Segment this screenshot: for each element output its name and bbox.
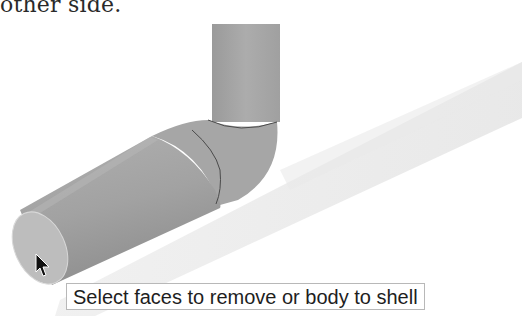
vertical-pipe-segment[interactable] (212, 24, 280, 122)
arrow-pointer-icon (35, 253, 51, 279)
page: other side. (0, 0, 522, 316)
3d-viewport[interactable] (0, 0, 522, 316)
selection-hint-tooltip: Select faces to remove or body to shell (66, 283, 425, 310)
